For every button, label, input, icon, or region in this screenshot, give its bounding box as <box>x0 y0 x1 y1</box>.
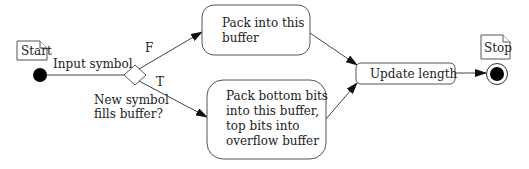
svg-text:overflow buffer: overflow buffer <box>226 134 319 148</box>
stop-note-label: Stop <box>484 41 512 55</box>
input-symbol-label: Input symbol <box>53 57 133 71</box>
svg-text:Pack into this: Pack into this <box>222 16 304 30</box>
false-label: F <box>145 41 153 55</box>
start-note-label: Start <box>21 44 52 58</box>
svg-text:buffer: buffer <box>222 31 259 45</box>
start-note: Start <box>17 41 52 60</box>
action-pack: Pack into this buffer <box>202 5 310 55</box>
true-label: T <box>156 75 164 89</box>
decision-label-line2: fills buffer? <box>94 107 163 121</box>
svg-text:Pack bottom bits: Pack bottom bits <box>226 89 328 103</box>
stop-note: Stop <box>481 35 512 59</box>
pack-to-update-edge <box>310 33 357 65</box>
activity-diagram: Start Input symbol New symbol fills buff… <box>0 0 529 169</box>
overflow-to-update-edge <box>326 83 357 119</box>
svg-text:Update length: Update length <box>370 67 458 81</box>
decision-label-line1: New symbol <box>94 93 169 107</box>
action-pack-overflow: Pack bottom bits into this buffer, top b… <box>207 80 328 159</box>
svg-text:top bits into: top bits into <box>226 119 299 133</box>
initial-node <box>33 68 47 82</box>
action-update-length: Update length <box>356 63 458 84</box>
svg-text:into this buffer,: into this buffer, <box>226 104 319 118</box>
final-node <box>487 64 508 85</box>
